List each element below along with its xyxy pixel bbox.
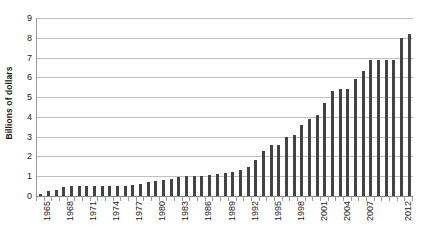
x-axis-tick-label: 1992	[251, 201, 260, 221]
bar	[247, 167, 250, 196]
bar	[70, 186, 73, 196]
bar	[262, 151, 265, 196]
bar	[331, 91, 334, 196]
bar	[124, 186, 127, 196]
bar	[108, 186, 111, 196]
bar	[293, 135, 296, 196]
x-axis-tick-label: 1986	[204, 201, 213, 221]
bars-layer	[37, 18, 413, 196]
x-axis-tick-label: 1968	[66, 201, 75, 221]
bar	[85, 186, 88, 196]
x-axis-tick-label: 1977	[135, 201, 144, 221]
x-axis-tick-labels: 1965196819711974197719801983198619891992…	[36, 201, 412, 241]
bar	[270, 145, 273, 196]
plot-area	[36, 18, 413, 196]
x-axis-tick-label: 1989	[228, 201, 237, 221]
y-axis-tick-labels: 0123456789	[18, 12, 34, 196]
y-axis-tick-label: 6	[27, 73, 32, 82]
bar	[231, 172, 234, 196]
bar	[300, 125, 303, 196]
bar	[362, 71, 365, 196]
y-axis-title: Billions of dollars	[0, 0, 18, 205]
bar	[224, 173, 227, 196]
y-axis-tick-label: 3	[27, 132, 32, 141]
x-axis-tick-label: 2004	[343, 201, 352, 221]
x-axis-tick-label: 1995	[274, 201, 283, 221]
bar	[216, 174, 219, 196]
bar	[277, 145, 280, 196]
y-axis-tick-label: 8	[27, 33, 32, 42]
x-axis-tick-label: 1971	[89, 201, 98, 221]
bar	[93, 186, 96, 196]
x-axis-tick-label: 1965	[43, 201, 52, 221]
bar	[369, 60, 372, 196]
bar	[154, 181, 157, 196]
bar	[139, 184, 142, 196]
bar-chart: Billions of dollars 0123456789 196519681…	[0, 0, 423, 241]
y-axis-tick-label: 2	[27, 152, 32, 161]
bar	[285, 137, 288, 196]
x-axis-tick-label: 1980	[158, 201, 167, 221]
bar	[147, 182, 150, 196]
y-axis-tick-label: 1	[27, 172, 32, 181]
bar	[131, 185, 134, 196]
bar	[346, 89, 349, 196]
bar	[354, 79, 357, 196]
bar	[408, 34, 411, 196]
bar	[170, 179, 173, 196]
bar	[185, 176, 188, 196]
x-axis-tick-label: 1974	[112, 201, 121, 221]
x-axis-tick-label: 2007	[366, 201, 375, 221]
y-axis-tick-label: 4	[27, 112, 32, 121]
bar	[62, 187, 65, 196]
bar	[239, 170, 242, 196]
bar	[316, 115, 319, 196]
x-axis-tick-label: 2012	[404, 201, 413, 221]
y-axis-tick-label: 0	[27, 192, 32, 201]
bar	[308, 119, 311, 196]
bar	[101, 186, 104, 196]
y-axis-tick-label: 7	[27, 53, 32, 62]
bar	[208, 175, 211, 196]
bar	[323, 103, 326, 196]
y-axis-title-label: Billions of dollars	[4, 66, 14, 139]
bar	[377, 60, 380, 196]
bar	[78, 186, 81, 196]
bar	[254, 160, 257, 196]
y-axis-tick-label: 5	[27, 93, 32, 102]
bar	[162, 180, 165, 196]
bar	[392, 60, 395, 196]
bar	[339, 89, 342, 196]
bar	[385, 60, 388, 196]
y-axis-tick-label: 9	[27, 14, 32, 23]
bar	[400, 38, 403, 196]
bar	[116, 186, 119, 196]
x-axis-tick-label: 2001	[320, 201, 329, 221]
bar	[193, 176, 196, 196]
x-axis-tick-label: 1998	[297, 201, 306, 221]
x-axis-tick-label: 1983	[181, 201, 190, 221]
bar	[177, 177, 180, 196]
bar	[200, 176, 203, 196]
